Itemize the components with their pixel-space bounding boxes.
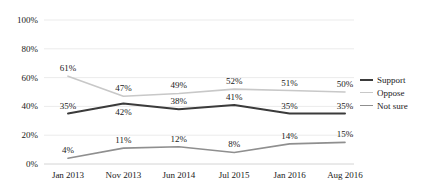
x-axis-tick-label: Jul 2015 (204, 170, 264, 180)
data-point-label: 35% (270, 101, 310, 111)
data-point-label: 52% (214, 76, 254, 86)
data-point-label: 15% (325, 129, 365, 139)
data-point-label: 11% (103, 135, 143, 145)
y-axis-tick-label: 100% (0, 15, 38, 25)
data-point-label: 50% (325, 79, 365, 89)
data-point-label: 14% (270, 131, 310, 141)
data-point-label: 42% (103, 107, 143, 117)
y-axis-tick-label: 80% (0, 44, 38, 54)
data-point-label: 35% (48, 101, 88, 111)
data-point-label: 49% (159, 80, 199, 90)
data-point-label: 51% (270, 78, 310, 88)
legend-item-not-sure[interactable]: Not sure (360, 99, 424, 112)
legend-swatch-icon (360, 105, 373, 106)
y-axis-tick-label: 0% (0, 159, 38, 169)
data-point-label: 12% (159, 134, 199, 144)
legend-item-label: Support (377, 75, 406, 85)
data-point-label: 41% (214, 92, 254, 102)
y-axis-tick-label: 60% (0, 73, 38, 83)
data-point-label: 38% (159, 96, 199, 106)
x-axis-tick-label: Jun 2014 (149, 170, 209, 180)
legend-item-label: Not sure (377, 101, 408, 111)
x-axis-tick-label: Nov 2013 (93, 170, 153, 180)
data-point-label: 8% (214, 139, 254, 149)
legend-item-label: Oppose (377, 88, 405, 98)
data-point-label: 4% (48, 145, 88, 155)
y-axis-tick-label: 20% (0, 130, 38, 140)
y-axis-tick-label: 40% (0, 101, 38, 111)
legend-swatch-icon (360, 79, 373, 81)
x-axis-tick-label: Aug 2016 (315, 170, 375, 180)
data-point-label: 35% (325, 101, 365, 111)
line-chart: 0%20%40%60%80%100% Jan 2013Nov 2013Jun 2… (0, 0, 424, 189)
data-point-label: 47% (103, 83, 143, 93)
legend-item-support[interactable]: Support (360, 73, 424, 86)
legend-item-oppose[interactable]: Oppose (360, 86, 424, 99)
chart-legend: SupportOpposeNot sure (360, 73, 424, 112)
data-point-label: 61% (48, 63, 88, 73)
legend-swatch-icon (360, 92, 373, 93)
x-axis-tick-label: Jan 2013 (38, 170, 98, 180)
x-axis-tick-label: Jan 2016 (260, 170, 320, 180)
